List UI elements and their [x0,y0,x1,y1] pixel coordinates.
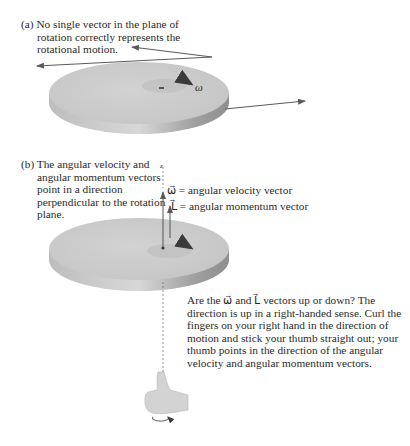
right-hand-rule-description: Are the ω⃗ and L⃗ vectors up or down? Th… [187,294,409,370]
tangent-arrow-right [225,101,305,109]
right-hand-icon [145,372,188,421]
L-vector-label: L⃗ = angular momentum vector [171,200,308,213]
omega-vector-label: ω⃗ = angular velocity vector [167,184,292,197]
panel-b-label: (b) [21,158,34,170]
panel-a-label: (a) [21,18,34,30]
panel-a-caption: (a) No single vector in the plane of rot… [21,18,207,56]
omega-symbol-a: ω [195,81,203,93]
diagram-canvas [0,0,410,446]
z-axis-label: z [160,162,163,170]
disk-b [49,218,229,291]
disk-a [49,62,229,134]
panel-b-caption: (b) The angular velocity and angular mom… [21,158,167,221]
